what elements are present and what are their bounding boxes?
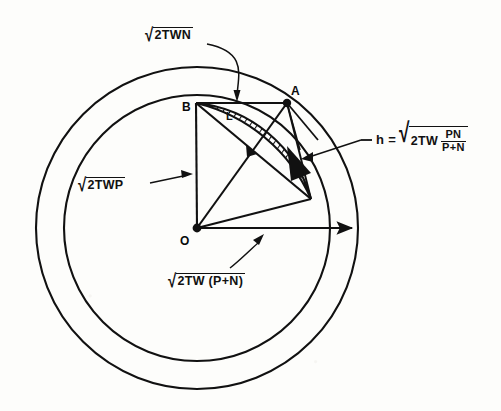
point-b-label: B <box>182 100 191 114</box>
leader-line-bottom <box>230 243 258 268</box>
radical-sign-right: √ <box>399 118 410 157</box>
radical-sign-top: √ <box>145 25 154 44</box>
radicand-right-lead: 2TW <box>411 135 438 148</box>
radicand-left: 2TWP <box>86 177 126 192</box>
point-a-label: A <box>291 84 300 98</box>
fraction-pn-over-p-plus-n: PN P+N <box>441 129 466 153</box>
diagram-canvas <box>0 0 501 411</box>
radicand-top: 2TWN <box>153 27 194 42</box>
radius-OB <box>196 103 197 228</box>
annotation-h-equation: h = √ 2TW PN P+N <box>376 126 468 153</box>
leader-arrow-left <box>181 170 193 178</box>
origin-label: O <box>180 234 190 248</box>
fraction-numerator: PN <box>444 129 462 141</box>
radical-sign-bottom: √ <box>168 271 177 290</box>
point-a-dot <box>283 99 291 107</box>
annotation-sqrt-2tw-p-plus-n: √ 2TW (P+N) <box>168 272 245 290</box>
radicand-bottom: 2TW (P+N) <box>176 273 246 288</box>
fraction-denominator: P+N <box>441 141 466 154</box>
annotation-sqrt-2twn: √ 2TWN <box>145 26 193 44</box>
radical-sign-left: √ <box>78 175 87 194</box>
annotation-sqrt-2twp: √ 2TWP <box>78 176 125 194</box>
origin-point-dot <box>193 224 202 233</box>
lens-region-label: L <box>226 110 233 122</box>
h-equals-label: h = <box>376 132 396 147</box>
leader-arrow-bottom <box>253 234 264 245</box>
